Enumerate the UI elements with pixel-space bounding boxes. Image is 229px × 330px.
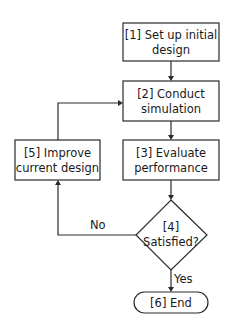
- node-4-label-line2: Satisfied?: [143, 235, 199, 249]
- arrow-head-icon: [118, 100, 123, 106]
- node-6-label: [6] End: [150, 296, 192, 310]
- arrow-head-icon: [55, 180, 61, 185]
- arrow-head-icon: [168, 287, 174, 292]
- node-5-label-line2: current design: [16, 161, 99, 175]
- node-satisfied-decision: [4] Satisfied?: [136, 200, 207, 270]
- node-1-label-line1: [1] Set up initial: [125, 28, 217, 42]
- node-end: [6] End: [134, 292, 208, 313]
- node-4-label-line1: [4]: [163, 220, 179, 234]
- arrow-head-icon: [168, 76, 174, 81]
- node-improve-current-design: [5] Improve current design: [15, 140, 100, 180]
- node-2-label-line1: [2] Conduct: [137, 87, 205, 101]
- edge-label-no: No: [90, 218, 106, 232]
- arrow-head-icon: [168, 135, 174, 140]
- node-1-label-line2: design: [152, 43, 190, 57]
- edge-4-to-6-yes: Yes: [168, 270, 193, 292]
- node-conduct-simulation: [2] Conduct simulation: [123, 81, 219, 121]
- edge-5-to-2: [58, 100, 123, 140]
- flowchart-canvas: [1] Set up initial design [2] Conduct si…: [0, 0, 229, 330]
- node-5-label-line1: [5] Improve: [24, 146, 91, 160]
- node-3-label-line2: performance: [134, 161, 208, 175]
- node-3-label-line1: [3] Evaluate: [136, 146, 206, 160]
- node-set-up-initial-design: [1] Set up initial design: [123, 23, 219, 61]
- edge-4-to-5-no: No: [55, 180, 136, 235]
- node-evaluate-performance: [3] Evaluate performance: [123, 140, 219, 180]
- edge-label-yes: Yes: [173, 272, 193, 286]
- edge-1-to-2: [168, 61, 174, 81]
- edge-2-to-3: [168, 121, 174, 140]
- edge-3-to-4: [168, 180, 174, 200]
- node-2-label-line2: simulation: [141, 102, 201, 116]
